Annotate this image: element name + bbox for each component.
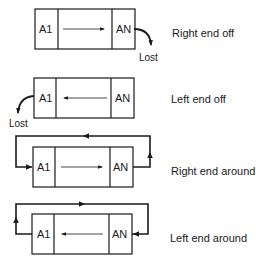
last-cell-label: AN <box>116 23 131 35</box>
caption: Left end off <box>171 93 227 105</box>
last-cell-label: AN <box>115 92 130 104</box>
loop-arrowhead-up-icon <box>147 152 153 158</box>
loop-arrowhead-up-icon <box>13 217 19 223</box>
lost-label: Lost <box>9 118 28 129</box>
first-cell-label: A1 <box>39 92 52 104</box>
loop-arrowhead-left-icon <box>133 231 139 237</box>
last-cell-label: AN <box>112 228 127 240</box>
loop-arrowhead-right-icon <box>26 164 32 170</box>
caption: Right end off <box>172 27 235 39</box>
lost-curve-arrow-icon <box>134 29 151 45</box>
caption: Left end around <box>170 232 247 244</box>
loop-arrowhead-right-icon <box>79 201 85 207</box>
lost-curve-arrow-icon <box>18 96 34 113</box>
loop-arrowhead-left-icon <box>83 133 89 139</box>
diagram-left-end-around: A1 AN Left end around <box>13 201 247 254</box>
last-cell-label: AN <box>113 161 128 173</box>
first-cell-label: A1 <box>39 23 52 35</box>
diagram-right-end-around: A1 AN Right end around <box>16 133 255 187</box>
wraparound-loop <box>16 204 148 234</box>
caption: Right end around <box>171 165 255 177</box>
diagram-left-end-off: A1 AN Lost Left end off <box>9 78 227 129</box>
shift-operations-diagram: A1 AN Lost Right end off A1 AN Lost Left… <box>0 0 256 267</box>
first-cell-label: A1 <box>37 161 50 173</box>
diagram-right-end-off: A1 AN Lost Right end off <box>35 9 235 63</box>
lost-label: Lost <box>139 52 158 63</box>
first-cell-label: A1 <box>37 228 50 240</box>
